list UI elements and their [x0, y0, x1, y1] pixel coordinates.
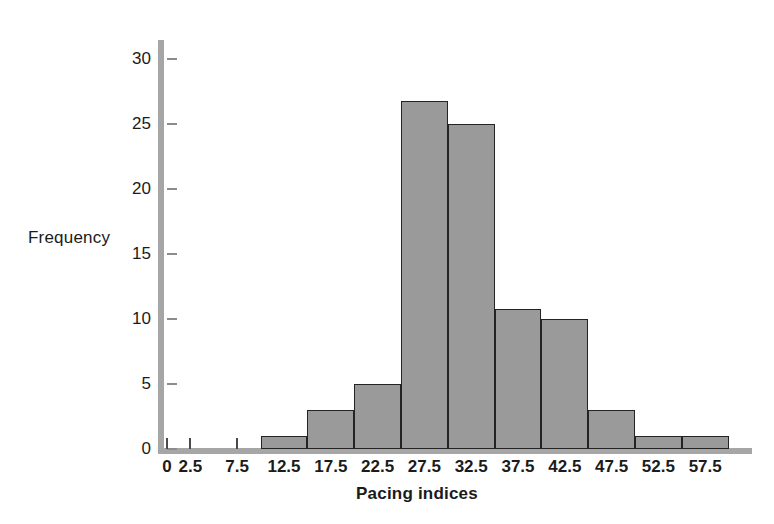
x-tick-label: 37.5	[501, 457, 534, 477]
y-axis-spine	[158, 40, 164, 449]
x-tick-label: 52.5	[642, 457, 675, 477]
y-tick-label: 0	[142, 439, 151, 459]
histogram-bar	[588, 410, 635, 449]
x-tick-label: 22.5	[361, 457, 394, 477]
x-tick-label: 47.5	[595, 457, 628, 477]
x-tick-label: 2.5	[179, 457, 203, 477]
x-tick	[236, 438, 238, 449]
x-tick-label: 57.5	[689, 457, 722, 477]
histogram-bar	[307, 410, 354, 449]
y-tick-label: 25	[132, 114, 151, 134]
y-tick: 30	[167, 58, 177, 60]
x-tick-label: 42.5	[548, 457, 581, 477]
x-tick-label: 32.5	[455, 457, 488, 477]
y-tick-label: 5	[142, 374, 151, 394]
histogram-bar	[541, 319, 588, 449]
x-tick-label: 27.5	[408, 457, 441, 477]
y-tick-label: 15	[132, 244, 151, 264]
histogram-bar	[635, 436, 682, 449]
histogram-bar	[495, 309, 542, 449]
x-tick	[189, 438, 191, 449]
y-tick-label: 10	[132, 309, 151, 329]
y-tick: 10	[167, 318, 177, 320]
histogram-bar	[401, 101, 448, 449]
histogram-bar	[354, 384, 401, 449]
x-tick-label: 12.5	[267, 457, 300, 477]
histogram-figure: Frequency 051015202530 02.57.512.517.522…	[0, 0, 774, 524]
y-axis-label: Frequency	[28, 228, 110, 248]
y-tick: 15	[167, 253, 177, 255]
plot-area: 051015202530 02.57.512.517.522.527.532.5…	[167, 40, 752, 449]
x-tick-label: 17.5	[314, 457, 347, 477]
histogram-bar	[261, 436, 308, 449]
histogram-bar	[448, 124, 495, 449]
x-tick-label: 7.5	[225, 457, 249, 477]
x-axis-label: Pacing indices	[0, 484, 774, 504]
x-tick-label: 0	[162, 457, 171, 477]
y-tick: 25	[167, 123, 177, 125]
y-tick-label: 30	[132, 49, 151, 69]
x-tick	[166, 438, 168, 449]
y-tick: 20	[167, 188, 177, 190]
y-tick: 0	[167, 448, 177, 450]
histogram-bar	[682, 436, 729, 449]
y-tick: 5	[167, 383, 177, 385]
y-tick-label: 20	[132, 179, 151, 199]
